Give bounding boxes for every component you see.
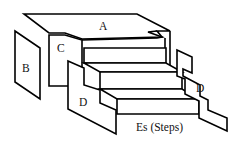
label-c: C [57,42,65,54]
label-a: A [99,20,108,32]
stairs-diagram: A B C D D Es (Steps) [0,0,241,149]
label-steps: Es (Steps) [136,121,183,134]
label-d-left: D [79,96,87,108]
label-d-right: D [196,82,204,94]
label-b: B [22,62,30,74]
